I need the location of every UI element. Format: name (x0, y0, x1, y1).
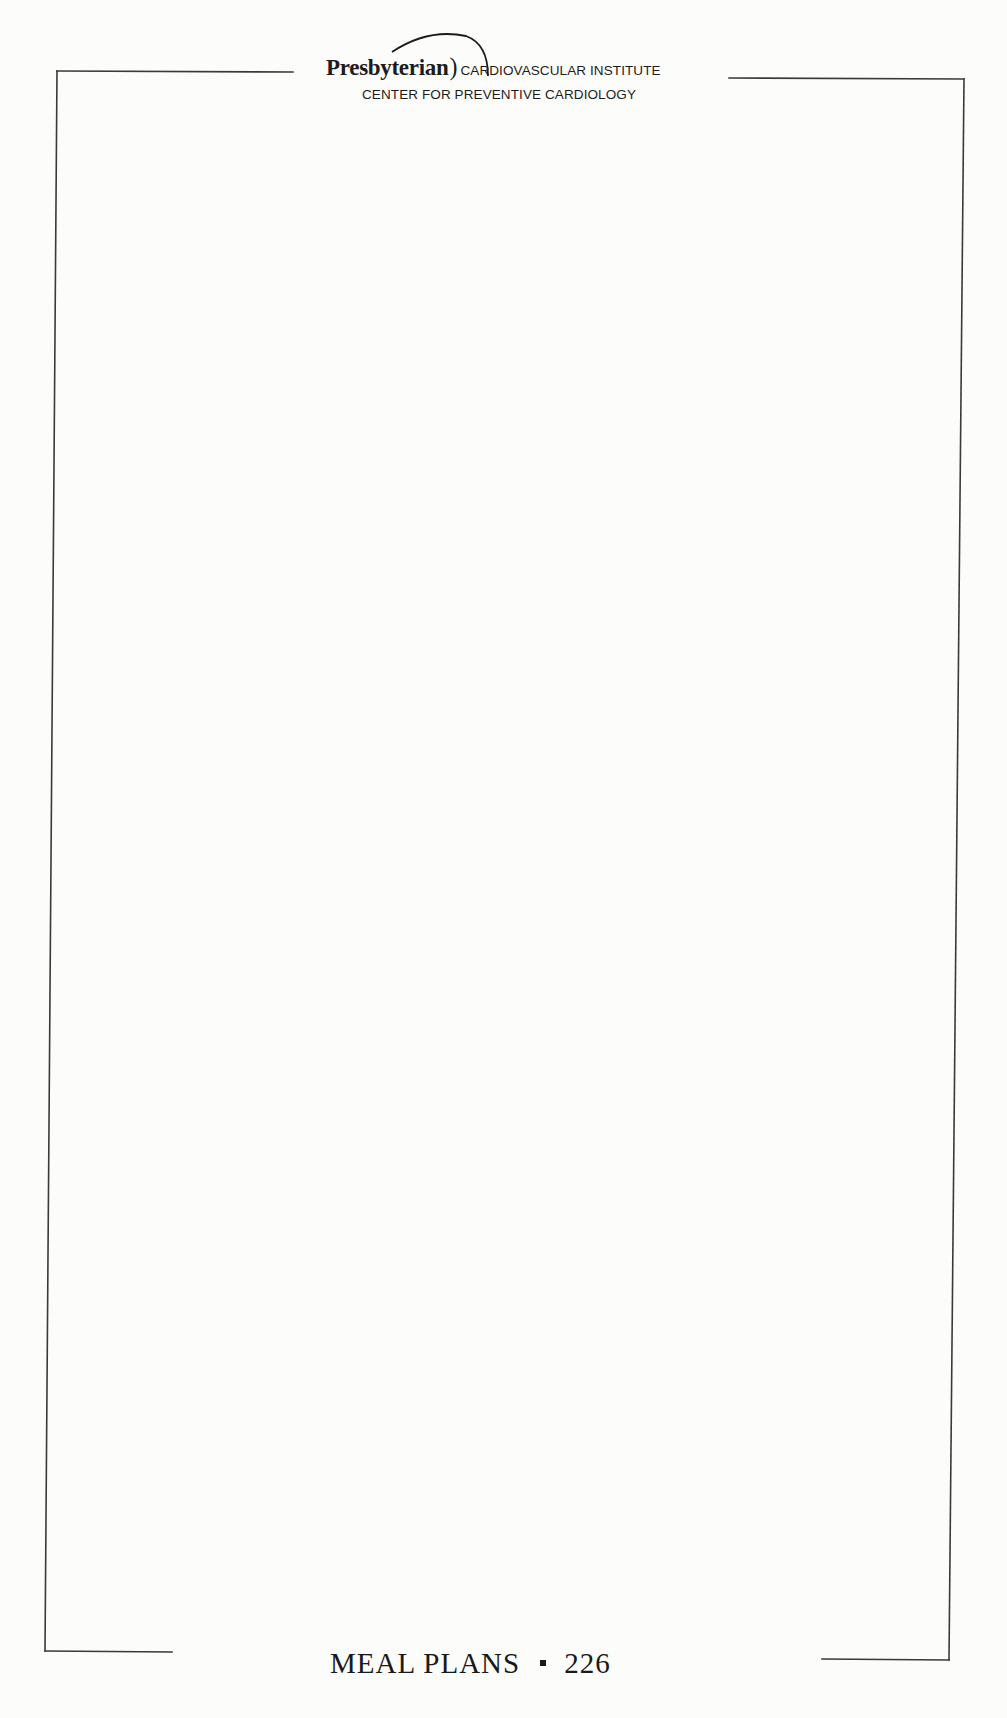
section-title: MEAL PLANS (330, 1647, 520, 1680)
page-footer: MEAL PLANS 226 (330, 1647, 611, 1680)
border-bottom-right (822, 1659, 949, 1660)
logo-bracket-icon: ) (449, 53, 457, 81)
border-top-left (57, 71, 293, 72)
border-left (45, 71, 57, 1651)
organization-name: Presbyterian (326, 55, 448, 81)
border-right (949, 79, 964, 1660)
logo-row: Presbyterian ) CARDIOVASCULAR INSTITUTE (326, 54, 661, 81)
letterhead: Presbyterian ) CARDIOVASCULAR INSTITUTE … (326, 32, 706, 112)
institute-name: CARDIOVASCULAR INSTITUTE (460, 63, 660, 78)
bullet-separator-icon (540, 1660, 546, 1666)
page-number: 226 (564, 1647, 611, 1680)
page-border (0, 0, 1007, 1718)
border-bottom-left (45, 1651, 172, 1652)
border-top-right (729, 78, 964, 79)
center-name: CENTER FOR PREVENTIVE CARDIOLOGY (362, 87, 636, 102)
